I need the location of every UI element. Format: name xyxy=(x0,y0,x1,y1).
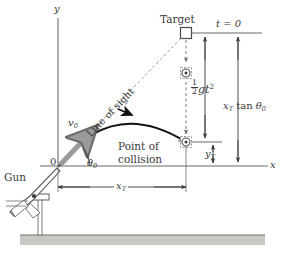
range-subscript: T xyxy=(122,185,126,193)
launch-angle-label: θ0 xyxy=(87,158,97,169)
ground xyxy=(20,235,265,245)
sight-height-tan: tan xyxy=(233,100,256,111)
target-height-subscript: T xyxy=(211,153,215,161)
figure-canvas xyxy=(0,0,284,254)
drop-distance-label: 1 2 gt2 xyxy=(191,79,214,96)
initial-velocity-subscript: 0 xyxy=(74,122,78,130)
range-label: xT xyxy=(114,181,128,192)
point-of-collision-label-line2: collision xyxy=(118,154,162,165)
projectile-target-figure: y x 0 Gun Target t = 0 Line of sight Poi… xyxy=(0,0,284,254)
drop-exponent: 2 xyxy=(210,82,215,91)
target-height-label: yT xyxy=(205,149,215,160)
sight-height-theta-subscript: 0 xyxy=(262,105,266,113)
y-axis-label: y xyxy=(54,4,60,14)
target-midfall-marker xyxy=(181,68,192,79)
t-zero-label: t = 0 xyxy=(216,19,241,29)
origin-label: 0 xyxy=(50,157,56,167)
drop-symbol: gt xyxy=(198,83,209,96)
target-label: Target xyxy=(160,14,195,25)
one-half-fraction: 1 2 xyxy=(191,79,198,96)
sight-height-label: xT tan θ0 xyxy=(223,101,266,112)
point-of-collision-label-line1: Point of xyxy=(118,141,159,152)
gun-label: Gun xyxy=(4,172,26,183)
collision-marker xyxy=(181,137,192,148)
fraction-denominator: 2 xyxy=(191,88,198,96)
launch-angle-subscript: 0 xyxy=(93,162,97,170)
x-axis-label: x xyxy=(270,160,276,170)
target-marker-square xyxy=(181,28,192,39)
initial-velocity-label: v0 xyxy=(68,118,78,129)
